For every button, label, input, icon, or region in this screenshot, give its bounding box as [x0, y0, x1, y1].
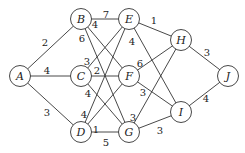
node-label: A	[15, 70, 24, 83]
edge-weight-g-i: 3	[157, 125, 163, 136]
edge-weight-d-e: 4	[81, 109, 87, 120]
node-g: G	[119, 122, 140, 143]
edge-weight-a-c: 4	[44, 65, 50, 76]
node-label: C	[77, 70, 86, 83]
node-label: F	[124, 70, 133, 83]
edge-weight-h-j: 3	[204, 47, 210, 58]
node-label: E	[124, 13, 133, 26]
node-f: F	[119, 66, 140, 87]
edge-weight-c-e: 3	[84, 56, 90, 67]
edge-weight-b-f: 4	[92, 19, 98, 30]
edge-weight-a-b: 2	[42, 37, 48, 48]
node-d: D	[71, 122, 92, 143]
edge-weight-f-i: 3	[140, 87, 146, 98]
edge-weight-c-f: 2	[94, 65, 100, 76]
node-j: J	[218, 66, 239, 87]
edge-weight-g-h: 3	[130, 112, 136, 123]
node-label: D	[76, 126, 86, 139]
edge-weight-b-e: 7	[103, 9, 109, 20]
node-label: J	[224, 70, 231, 83]
edge-weight-i-j: 4	[203, 93, 209, 104]
edge-weight-d-f: 1	[93, 124, 99, 135]
nodes-layer: ABCDEFGHIJ	[10, 9, 239, 143]
node-b: B	[71, 9, 92, 30]
edge-a-b	[20, 19, 81, 76]
node-i: I	[171, 102, 192, 123]
node-e: E	[119, 9, 140, 30]
node-c: C	[71, 66, 92, 87]
edge-weight-f-h: 6	[137, 58, 143, 69]
edge-a-d	[20, 76, 81, 132]
node-h: H	[171, 30, 192, 51]
node-label: B	[76, 13, 85, 26]
weighted-graph-diagram: 24374632441514633334 ABCDEFGHIJ	[0, 0, 245, 153]
node-label: H	[175, 34, 186, 47]
edge-weight-a-d: 3	[44, 107, 50, 118]
edge-weight-c-g: 4	[85, 88, 91, 99]
edge-weight-d-g: 5	[103, 137, 109, 148]
edge-weight-b-g: 6	[79, 33, 85, 44]
edge-weight-e-i: 4	[129, 36, 135, 47]
edge-weight-e-h: 1	[151, 15, 157, 26]
node-label: I	[178, 106, 184, 119]
node-a: A	[10, 66, 31, 87]
node-label: G	[125, 126, 134, 139]
